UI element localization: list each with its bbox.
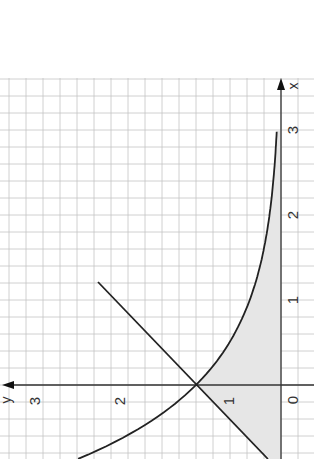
x-tick-1: 1: [284, 296, 301, 304]
y-tick-1: 1: [220, 397, 237, 405]
y-tick-3: 3: [26, 397, 43, 405]
x-tick-0: 0: [284, 396, 301, 404]
y-tick-2: 2: [111, 397, 128, 405]
y-axis-label: y: [0, 397, 14, 404]
shaded-area: [196, 130, 281, 459]
function-graph: x 3 2 1 0 y 3 2 1: [0, 0, 314, 459]
x-tick-3: 3: [284, 126, 301, 134]
x-axis-arrow-icon: [277, 78, 285, 90]
x-axis-label: x: [285, 83, 301, 90]
y-axis-arrow-icon: [2, 381, 14, 389]
x-tick-2: 2: [284, 211, 301, 219]
